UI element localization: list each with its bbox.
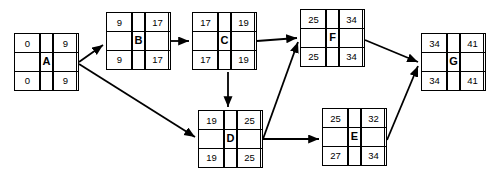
edge-f-to-g [365, 40, 418, 62]
node-a-cell-blank-right [52, 52, 79, 72]
node-a-early-finish-value: 9 [52, 33, 79, 53]
node-d-early-finish-value: 25 [236, 110, 263, 130]
node-a-early-start-value: 0 [14, 33, 41, 53]
node-d-late-start-value: 19 [198, 148, 225, 168]
node-f-cell-blank-left [300, 28, 327, 48]
node-e-cell-blank-left [322, 127, 349, 147]
node-c-late-finish-value: 19 [230, 50, 257, 70]
node-a-late-start-value: 0 [14, 71, 41, 91]
node-b-cell-blank-right [144, 31, 171, 51]
node-e-cell-blank-right [360, 127, 387, 147]
edge-a-to-b [79, 45, 103, 62]
node-d-cell-blank-left [198, 129, 225, 149]
node-f-late-start-value: 25 [300, 47, 327, 67]
node-e-late-finish-value: 34 [360, 146, 387, 166]
edge-c-to-f [257, 38, 297, 41]
node-f-late-finish-value: 34 [338, 47, 365, 67]
node-g-early-start-value: 34 [421, 33, 448, 53]
node-g-late-start-value: 34 [421, 71, 448, 91]
node-d-cell-blank-right [236, 129, 263, 149]
node-b-early-finish-value: 17 [144, 12, 171, 32]
node-e-early-finish-value: 32 [360, 108, 387, 128]
node-a-cell-blank-left [14, 52, 41, 72]
node-b-late-start-value: 9 [106, 50, 133, 70]
node-e-late-start-value: 27 [322, 146, 349, 166]
node-g-cell-blank-left [421, 52, 448, 72]
node-a[interactable]: 09A09 [14, 33, 77, 91]
node-c[interactable]: 1719C1719 [192, 12, 255, 70]
edge-e-to-g [387, 66, 418, 140]
node-f-early-finish-value: 34 [338, 9, 365, 29]
node-c-cell-blank-right [230, 31, 257, 51]
node-c-cell-blank-left [192, 31, 219, 51]
node-b-cell-blank-left [106, 31, 133, 51]
node-b-early-start-value: 9 [106, 12, 133, 32]
node-f-cell-blank-right [338, 28, 365, 48]
node-b[interactable]: 917B917 [106, 12, 169, 70]
node-e[interactable]: 2532E2734 [322, 108, 385, 166]
node-a-late-finish-value: 9 [52, 71, 79, 91]
node-e-early-start-value: 25 [322, 108, 349, 128]
node-b-late-finish-value: 17 [144, 50, 171, 70]
network-diagram: 09A09917B9171719C17191925D19252532E27342… [0, 0, 498, 179]
edge-a-to-d [79, 64, 195, 137]
node-d-late-finish-value: 25 [236, 148, 263, 168]
edge-d-to-f [263, 42, 298, 139]
node-g-early-finish-value: 41 [459, 33, 486, 53]
node-c-early-finish-value: 19 [230, 12, 257, 32]
node-c-late-start-value: 17 [192, 50, 219, 70]
node-d[interactable]: 1925D1925 [198, 110, 261, 168]
node-g-late-finish-value: 41 [459, 71, 486, 91]
node-f[interactable]: 2534F2534 [300, 9, 363, 67]
node-g[interactable]: 3441G3441 [421, 33, 484, 91]
node-c-early-start-value: 17 [192, 12, 219, 32]
node-f-early-start-value: 25 [300, 9, 327, 29]
node-d-early-start-value: 19 [198, 110, 225, 130]
node-g-cell-blank-right [459, 52, 486, 72]
